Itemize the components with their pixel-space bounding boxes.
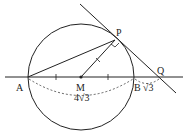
label-Q: Q [157,65,165,76]
segment-AP [28,40,115,77]
segment-MP [81,40,115,77]
label-B: B [134,82,141,93]
label-A: A [16,82,24,93]
label-BQ-length: √3 [143,82,154,93]
point-M [79,75,82,78]
label-AB-length: 4√3 [74,92,90,103]
geometry-diagram: A M B P Q 4√3 √3 [0,0,183,137]
label-P: P [116,27,122,38]
